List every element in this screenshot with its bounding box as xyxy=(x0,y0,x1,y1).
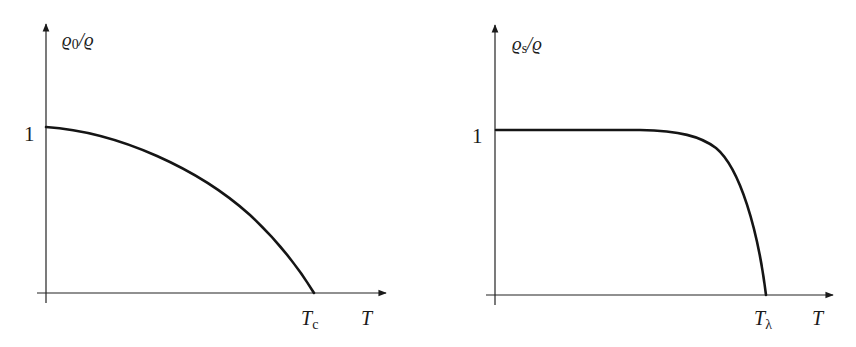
x-tick-tc: Tc xyxy=(301,307,318,332)
x-tick-tlambda: Tλ xyxy=(754,307,772,332)
panel-condensate-fraction: ϱ0/ϱ 1 Tc T xyxy=(24,24,386,332)
x-axis-label: T xyxy=(812,307,825,329)
superfluid-curve xyxy=(496,130,766,295)
panel-superfluid-fraction: ϱs/ϱ 1 Tλ T xyxy=(472,25,833,332)
y-tick-one: 1 xyxy=(472,124,483,148)
y-axis-label: ϱ0/ϱ xyxy=(62,29,94,52)
figure-canvas: ϱ0/ϱ 1 Tc T ϱs/ϱ 1 Tλ T xyxy=(0,0,856,347)
x-axis-label: T xyxy=(361,307,374,329)
condensate-curve xyxy=(46,127,314,293)
y-axis-label: ϱs/ϱ xyxy=(512,33,542,56)
y-tick-one: 1 xyxy=(24,122,35,146)
